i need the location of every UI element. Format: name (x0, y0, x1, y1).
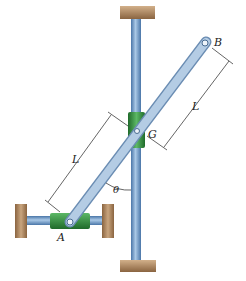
label-l-lower: L (71, 153, 79, 166)
dim-ext-lower-g (108, 112, 128, 126)
label-b: B (213, 36, 222, 49)
top-support-block (120, 6, 155, 19)
bottom-support-block (120, 260, 156, 272)
label-theta: θ (113, 184, 119, 195)
left-support-block (15, 204, 27, 238)
mechanism-diagram: B G A L L θ (0, 0, 246, 281)
label-g: G (148, 128, 157, 141)
label-l-upper: L (191, 100, 199, 113)
label-a: A (56, 231, 65, 244)
dim-ext-lower-a (45, 200, 60, 212)
pin-a (67, 219, 73, 225)
pin-b (202, 40, 208, 46)
dim-ext-upper-b (212, 48, 233, 64)
pin-g (135, 129, 140, 134)
right-support-block (102, 204, 114, 238)
